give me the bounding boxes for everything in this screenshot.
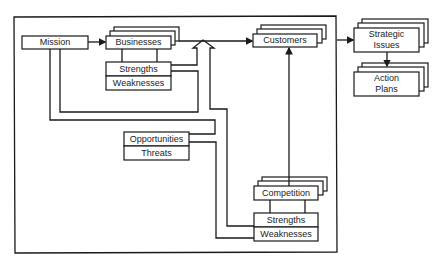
opportunities-weaknesses-link: [189, 142, 254, 238]
action-plans-line1: Action: [374, 73, 399, 84]
strategic-issues-line2: Issues: [373, 40, 399, 51]
businesses-label: Businesses: [106, 36, 171, 49]
business-weaknesses-label: Weaknesses: [106, 76, 171, 90]
competition-strengths-label: Strengths: [254, 213, 318, 227]
action-plans-line2: Plans: [375, 84, 398, 95]
threats-label: Threats: [124, 146, 189, 160]
strategic-issues-label: Strategic Issues: [354, 28, 419, 52]
competition-label: Competition: [254, 186, 318, 200]
customers-label: Customers: [253, 34, 317, 47]
competition-weaknesses-label: Weaknesses: [254, 227, 318, 241]
strategic-issues-line1: Strategic: [369, 29, 405, 40]
business-strengths-label: Strengths: [106, 62, 171, 76]
opportunities-label: Opportunities: [124, 132, 189, 146]
mission-opportunities-loop: [50, 48, 215, 134]
mission-label: Mission: [22, 36, 88, 49]
action-plans-label: Action Plans: [354, 72, 419, 96]
